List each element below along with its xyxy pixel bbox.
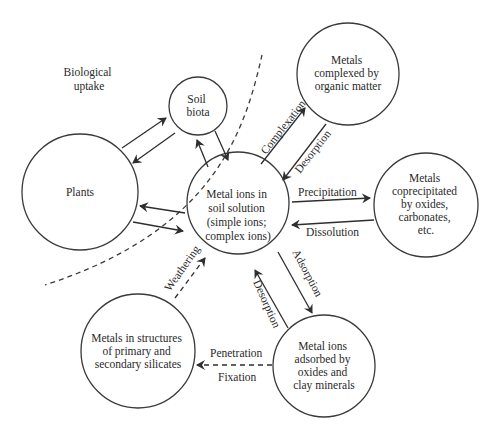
node-adsorbed: Metal ions adsorbed by oxides and clay m… xyxy=(273,315,375,417)
node-soil-biota: Soil biota xyxy=(169,77,227,135)
region-label-biological-uptake: Biological uptake xyxy=(64,66,115,93)
svg-text:Metals complexed by: Metals complexed by organic matter xyxy=(314,54,382,93)
label-fixation: Fixation xyxy=(218,371,257,383)
node-plants: Plants xyxy=(22,134,138,250)
node-metal-ions-soil-solution: Metal ions in soil solution (simple ions… xyxy=(187,152,289,254)
label-desorption-clay: Desorption xyxy=(250,278,283,330)
arrow-center-to-plants xyxy=(140,206,185,213)
svg-text:Plants: Plants xyxy=(66,186,95,198)
metal-ion-soil-cycle-diagram: Biological uptake Plants Soil biota Meta… xyxy=(0,0,499,435)
svg-text:Metal ions in soil solut: Metal ions in soil solution (simple ions… xyxy=(205,188,271,243)
label-dissolution: Dissolution xyxy=(306,226,359,238)
svg-text:Metals coprecipitated: Metals coprecipitated by oxides, carbona… xyxy=(392,172,460,236)
label-complexation: Complexation xyxy=(258,97,309,157)
svg-text:Metals in structures of: Metals in structures of primary and seco… xyxy=(91,332,185,371)
label-desorption-organic: Desorption xyxy=(292,127,334,175)
arrow-dissolution xyxy=(292,220,374,225)
arrow-biota-to-center xyxy=(215,131,228,160)
svg-text:Metal ions adsorbed by: Metal ions adsorbed by oxides and clay m… xyxy=(293,340,355,392)
arrow-center-to-biota xyxy=(197,140,208,167)
label-precipitation: Precipitation xyxy=(298,186,357,199)
node-silicates: Metals in structures of primary and seco… xyxy=(81,294,195,408)
label-penetration: Penetration xyxy=(210,347,263,359)
label-adsorption: Adsorption xyxy=(289,247,325,299)
arrow-precipitation xyxy=(292,198,370,202)
node-coprecipitated: Metals coprecipitated by oxides, carbona… xyxy=(374,153,478,257)
svg-text:Soil biota: Soil biota xyxy=(187,93,210,118)
arrow-biota-to-plants xyxy=(133,133,175,163)
node-organic-matter: Metals complexed by organic matter xyxy=(297,23,399,125)
